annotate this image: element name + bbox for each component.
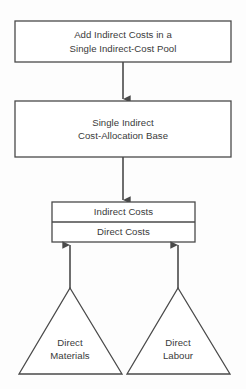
box-allocation-base bbox=[15, 101, 231, 157]
triangle-direct-labour bbox=[127, 288, 230, 374]
triangle-direct-materials bbox=[19, 288, 122, 374]
diagram-graphics bbox=[0, 0, 246, 389]
diagram-canvas: Add Indirect Costs in a Single Indirect-… bbox=[0, 0, 246, 389]
box-indirect-cost-pool bbox=[15, 21, 231, 62]
